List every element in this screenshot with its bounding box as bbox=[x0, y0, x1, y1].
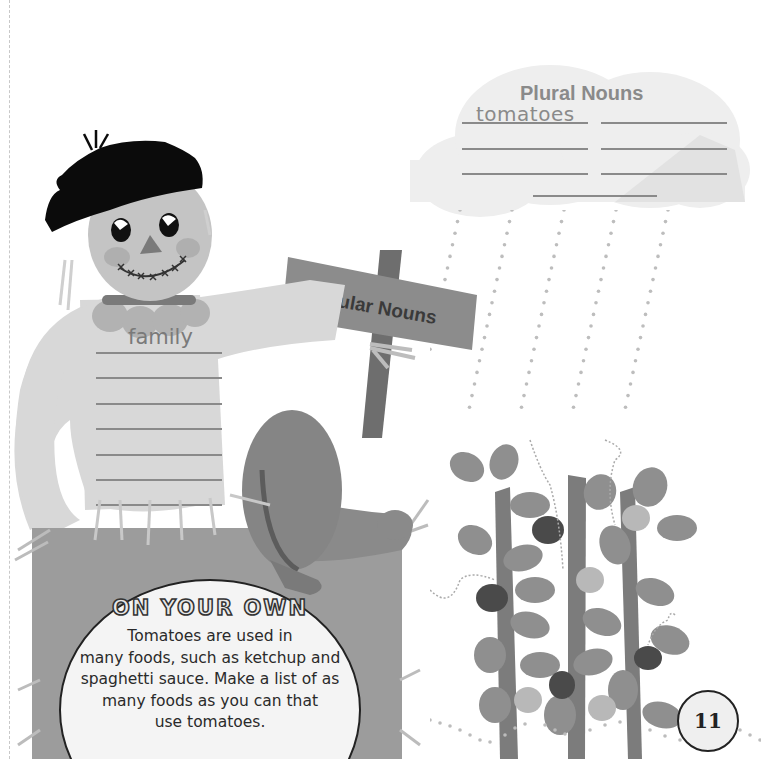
on-your-own-body: Tomatoes are used in many foods, such as… bbox=[55, 626, 365, 734]
plural-blank-line-5[interactable] bbox=[462, 173, 588, 175]
on-your-own-line-2: many foods, such as ketchup and bbox=[55, 648, 365, 670]
plural-blank-line-6[interactable] bbox=[601, 173, 727, 175]
plural-blank-line-2[interactable] bbox=[601, 122, 727, 124]
plural-blank-line-1[interactable] bbox=[462, 122, 588, 124]
on-your-own-line-3: spaghetti sauce. Make a list of as bbox=[55, 669, 365, 691]
singular-blank-line-2[interactable] bbox=[96, 377, 222, 379]
on-your-own-line-5: use tomatoes. bbox=[55, 712, 365, 734]
on-your-own-line-4: many foods as you can that bbox=[55, 691, 365, 713]
on-your-own-title: ON YOUR OWN bbox=[60, 596, 360, 620]
plural-blank-line-7[interactable] bbox=[533, 195, 657, 197]
on-your-own-line-1: Tomatoes are used in bbox=[55, 626, 365, 648]
page-number-badge: 11 bbox=[677, 690, 739, 752]
plural-blank-line-3[interactable] bbox=[462, 148, 588, 150]
singular-blank-line-1[interactable] bbox=[96, 352, 222, 354]
singular-example-word: family bbox=[128, 325, 193, 349]
plural-blank-line-4[interactable] bbox=[601, 148, 727, 150]
